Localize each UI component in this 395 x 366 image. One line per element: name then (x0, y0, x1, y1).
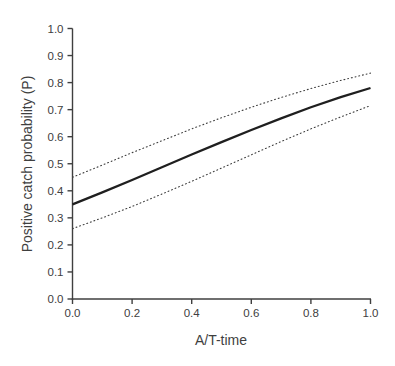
x-tick-label: 0.8 (303, 307, 319, 319)
y-tick-label: 0.1 (48, 266, 64, 278)
y-tick-label: 0.6 (48, 131, 64, 143)
x-tick-label: 0.6 (243, 307, 259, 319)
figure: 0.00.10.20.30.40.50.60.70.80.91.00.00.20… (0, 0, 395, 366)
y-tick-label: 0.8 (48, 77, 64, 89)
y-tick-label: 0.0 (48, 293, 64, 305)
plot-area: 0.00.10.20.30.40.50.60.70.80.91.00.00.20… (0, 0, 395, 366)
y-tick-label: 0.9 (48, 50, 64, 62)
upper-confidence-bound-line (73, 73, 371, 177)
predicted-probability-line (73, 88, 371, 204)
x-tick-label: 0.4 (184, 307, 201, 319)
y-tick-label: 0.4 (48, 185, 65, 197)
y-tick-label: 1.0 (48, 23, 64, 35)
x-tick-label: 1.0 (363, 307, 379, 319)
x-axis-title: A/T-time (195, 332, 247, 348)
x-tick-label: 0.0 (65, 307, 81, 319)
y-tick-label: 0.7 (48, 104, 64, 116)
lower-confidence-bound-line (73, 106, 371, 229)
y-tick-label: 0.5 (48, 158, 64, 170)
y-tick-label: 0.3 (48, 212, 64, 224)
y-axis-title: Positive catch probability (P) (19, 76, 35, 253)
x-tick-label: 0.2 (124, 307, 140, 319)
y-tick-label: 0.2 (48, 239, 64, 251)
